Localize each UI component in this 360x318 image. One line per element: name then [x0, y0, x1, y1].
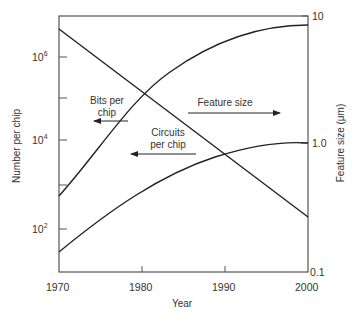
y-left-tick-1e2: 102: [32, 222, 48, 235]
right-axis-ticks: [301, 16, 308, 143]
x-axis-title: Year: [172, 298, 193, 309]
y-left-tick-1e6: 106: [32, 50, 48, 63]
x-tick-1970: 1970: [46, 281, 70, 293]
y-right-tick-0.1: 0.1: [310, 266, 325, 278]
bits-per-chip-label-line1: Bits per: [90, 95, 125, 106]
x-tick-2000: 2000: [295, 281, 319, 293]
x-axis-ticks: [142, 266, 225, 272]
chart: 106 104 102 10 1.0 0.1 1970 1980 1990 20…: [0, 0, 360, 318]
y-left-tick-1e4: 104: [32, 133, 48, 146]
y-right-axis-title: Feature size (μm): [335, 104, 346, 183]
feature-size-line: [59, 29, 308, 217]
x-tick-1980: 1980: [129, 281, 153, 293]
bits-per-chip-curve: [59, 25, 308, 196]
y-right-tick-1: 1.0: [312, 137, 327, 149]
y-right-tick-10: 10: [312, 10, 324, 22]
circuits-per-chip-label-line1: Circuits: [151, 127, 184, 138]
bits-per-chip-label-line2: chip: [98, 107, 117, 118]
circuits-per-chip-label-line2: per chip: [150, 139, 186, 150]
x-tick-1990: 1990: [212, 281, 236, 293]
y-left-axis-title: Number per chip: [11, 109, 22, 183]
left-axis-ticks: [59, 57, 67, 229]
feature-size-label: Feature size: [197, 97, 252, 108]
circuits-per-chip-curve: [59, 143, 308, 252]
